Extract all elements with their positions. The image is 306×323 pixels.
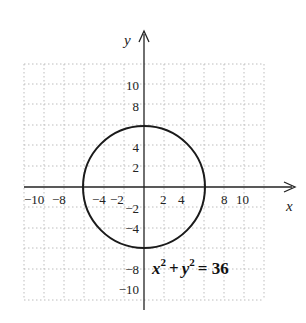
- x-tick: 2: [160, 192, 167, 207]
- y-tick: −8: [125, 262, 139, 277]
- y-axis-label: y: [122, 32, 131, 48]
- chart-canvas: y x −10 −8 −4 −2 2 4 8 10 10 8 4 2 −2 −4…: [0, 0, 306, 323]
- x-tick: 10: [236, 192, 249, 207]
- y-tick: 8: [133, 99, 140, 114]
- y-tick: −4: [125, 221, 139, 236]
- y-tick: 2: [133, 160, 140, 175]
- x-axis: [24, 182, 295, 192]
- equation-label: x2+y2= 36: [151, 256, 229, 278]
- x-tick: −4: [92, 192, 106, 207]
- y-tick: 10: [126, 78, 139, 93]
- y-tick: −10: [119, 282, 139, 297]
- x-tick: −10: [24, 192, 44, 207]
- y-tick: −2: [125, 201, 139, 216]
- y-tick: 4: [133, 140, 140, 155]
- x-tick: 4: [178, 192, 185, 207]
- x-tick: −2: [110, 192, 124, 207]
- x-tick: 8: [221, 192, 228, 207]
- x-tick: −8: [52, 192, 66, 207]
- x-axis-label: x: [285, 198, 293, 214]
- y-axis: [139, 31, 149, 310]
